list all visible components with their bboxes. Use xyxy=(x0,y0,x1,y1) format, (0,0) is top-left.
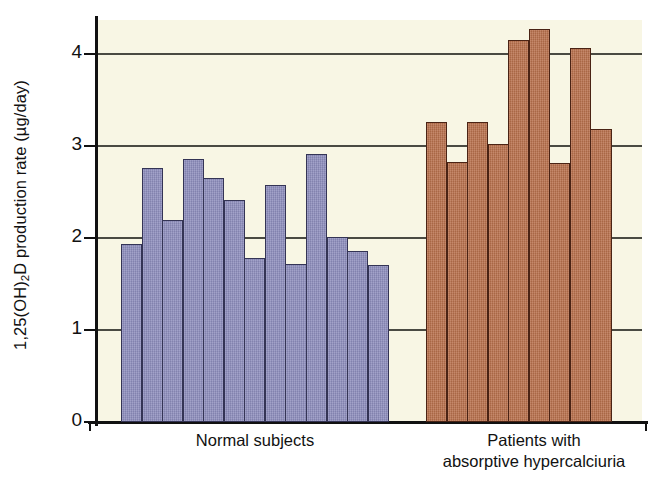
y-tick-label-2: 2 xyxy=(56,225,82,247)
bar-normal-subjects-9 xyxy=(285,264,306,422)
bar-normal-subjects-11 xyxy=(327,237,348,422)
bar-patients-absorptive-hypercalciuria-2 xyxy=(447,162,468,422)
bar-patients-absorptive-hypercalciuria-7 xyxy=(549,163,570,422)
bar-normal-subjects-6 xyxy=(224,200,245,422)
group-label-normal-subjects: Normal subjects xyxy=(120,430,390,451)
bar-normal-subjects-5 xyxy=(203,178,224,422)
y-axis-label-subscript: 2 xyxy=(19,275,31,282)
bar-normal-subjects-8 xyxy=(265,185,286,422)
y-axis-label-suffix: D production rate (µg/day) xyxy=(11,80,29,275)
y-tick-label-3: 3 xyxy=(56,133,82,155)
x-axis-left-end-tick xyxy=(89,421,91,431)
bar-normal-subjects-2 xyxy=(142,168,163,422)
y-axis-label: 1,25(OH)2D production rate (µg/day) xyxy=(11,80,30,350)
y-axis-spine xyxy=(95,16,98,426)
chart-figure: 1,25(OH)2D production rate (µg/day) 0123… xyxy=(0,0,662,501)
bar-normal-subjects-10 xyxy=(306,154,327,422)
y-tick-label-4: 4 xyxy=(56,41,82,63)
bar-patients-absorptive-hypercalciuria-6 xyxy=(529,29,550,422)
group-label-line-0: Patients with xyxy=(406,430,662,451)
bar-normal-subjects-1 xyxy=(121,244,142,422)
gridline-y-4 xyxy=(97,53,642,55)
y-axis-label-container: 1,25(OH)2D production rate (µg/day) xyxy=(0,0,40,430)
bar-normal-subjects-4 xyxy=(183,159,204,422)
gridline-y-3 xyxy=(97,145,642,147)
y-axis-label-prefix: 1,25(OH) xyxy=(11,281,29,350)
bar-normal-subjects-13 xyxy=(368,265,389,422)
bar-normal-subjects-12 xyxy=(347,251,368,422)
bar-normal-subjects-7 xyxy=(244,258,265,422)
bar-patients-absorptive-hypercalciuria-3 xyxy=(467,122,488,422)
group-label-line-1: absorptive hypercalciuria xyxy=(406,451,662,472)
bar-patients-absorptive-hypercalciuria-8 xyxy=(570,48,591,422)
bar-patients-absorptive-hypercalciuria-5 xyxy=(508,40,529,422)
bar-patients-absorptive-hypercalciuria-9 xyxy=(590,129,611,422)
bar-patients-absorptive-hypercalciuria-4 xyxy=(488,144,509,422)
bar-patients-absorptive-hypercalciuria-1 xyxy=(426,122,447,422)
bar-normal-subjects-3 xyxy=(162,220,183,422)
y-tick-label-0: 0 xyxy=(56,409,82,431)
y-tick-label-1: 1 xyxy=(56,317,82,339)
group-label-line-0: Normal subjects xyxy=(120,430,390,451)
group-label-patients: Patients withabsorptive hypercalciuria xyxy=(406,430,662,472)
